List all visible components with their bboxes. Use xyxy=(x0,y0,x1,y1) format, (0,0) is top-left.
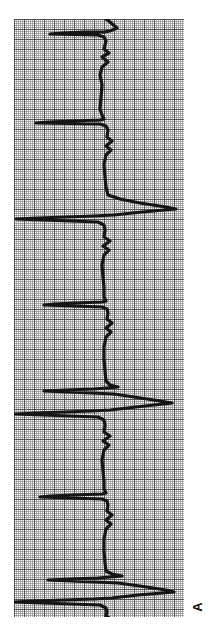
ecg-trace xyxy=(14,19,184,617)
ecg-figure: A xyxy=(0,0,213,638)
ecg-trace-svg xyxy=(14,19,184,617)
ecg-waveform-polyline xyxy=(14,19,176,617)
panel-label-a: A xyxy=(186,596,208,618)
